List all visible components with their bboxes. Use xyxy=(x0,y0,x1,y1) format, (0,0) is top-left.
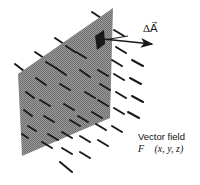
area-vector-label: ΔA⃗ xyxy=(143,22,158,35)
vector-field-function: F⃗ (x, y, z) xyxy=(138,143,183,154)
vector-field-diagram xyxy=(0,0,200,185)
vector-field-title: Vector field xyxy=(138,131,185,142)
